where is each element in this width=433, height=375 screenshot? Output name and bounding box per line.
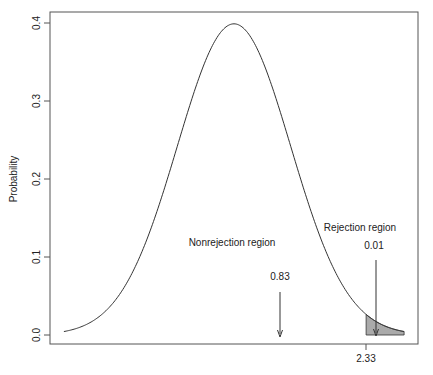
x-tick-label: 2.33 — [356, 353, 376, 364]
nonrejection-value-label: 0.83 — [270, 271, 290, 282]
y-tick-label: 0.3 — [31, 94, 42, 108]
y-tick-label: 0.1 — [31, 250, 42, 264]
plot-frame — [50, 12, 418, 344]
y-tick-label: 0.0 — [31, 328, 42, 342]
y-tick-label: 0.4 — [31, 16, 42, 30]
nonrejection-region-label: Nonrejection region — [189, 237, 276, 248]
rejection-value-label: 0.01 — [364, 240, 384, 251]
rejection-region-shading — [366, 314, 404, 335]
y-axis — [44, 23, 50, 335]
y-axis-label: Probability — [8, 156, 19, 203]
chart: 0.0 0.1 0.2 0.3 0.4 Probability 2.33 Non… — [0, 0, 433, 375]
normal-curve — [64, 24, 404, 332]
y-tick-label: 0.2 — [31, 172, 42, 186]
rejection-region-label: Rejection region — [324, 222, 396, 233]
